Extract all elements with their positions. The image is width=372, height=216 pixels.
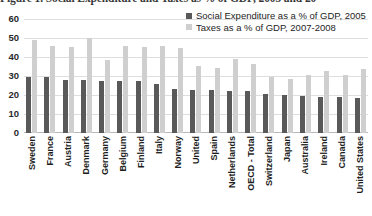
bar (190, 90, 195, 133)
x-axis-label: Switzerland (264, 136, 273, 186)
y-axis-tick-30: 30 (8, 71, 19, 81)
bar (215, 68, 220, 133)
x-axis-label: Belgium (118, 136, 127, 172)
bar (142, 47, 147, 133)
x-axis-label: United (191, 136, 200, 164)
x-axis-label-slot: Austria (63, 136, 74, 216)
x-axis-label: Ireland (319, 136, 328, 166)
bar-group (245, 19, 256, 133)
bar-group (300, 19, 311, 133)
x-axis-label-slot: France (44, 136, 55, 216)
bar-group (263, 19, 274, 133)
y-axis-tick-40: 40 (8, 52, 19, 62)
y-axis-tick-20: 20 (8, 90, 19, 100)
x-axis-label-slot: Canada (337, 136, 348, 216)
y-axis-tick-50: 50 (8, 33, 19, 43)
bar (300, 96, 305, 133)
x-axis-label: Italy (155, 136, 164, 154)
bar (99, 81, 104, 133)
bar-group (227, 19, 238, 133)
bar-group (209, 19, 220, 133)
x-axis-label-slot: Spain (209, 136, 220, 216)
y-axis: 6050403020100 (0, 19, 22, 133)
x-axis-label-slot: Australia (300, 136, 311, 216)
bar-group (318, 19, 329, 133)
y-axis-tick-10: 10 (8, 109, 19, 119)
bar (263, 94, 268, 133)
bar (172, 89, 177, 133)
bar-group (190, 19, 201, 133)
bar (50, 46, 55, 133)
bar-group (63, 19, 74, 133)
x-axis-label-slot: Norway (172, 136, 183, 216)
bar-group (154, 19, 165, 133)
bar (196, 66, 201, 133)
bar (123, 46, 128, 133)
x-axis-label-slot: Switzerland (263, 136, 274, 216)
x-axis-label: Germany (100, 136, 109, 175)
x-axis-label-slot: Finland (136, 136, 147, 216)
x-axis-label-slot: Germany (99, 136, 110, 216)
bar-group (282, 19, 293, 133)
x-axis-label: France (45, 136, 54, 166)
x-axis-label: Sweden (27, 136, 36, 170)
bar (81, 80, 86, 133)
x-axis-label-slot: Japan (282, 136, 293, 216)
x-axis-label: Australia (301, 136, 310, 175)
bar (209, 90, 214, 133)
x-axis-label: United States (356, 136, 365, 194)
x-axis-label: Austria (64, 136, 73, 167)
bar-group (81, 19, 92, 133)
bar-group (355, 19, 366, 133)
plot-area (24, 19, 368, 133)
x-axis-label-slot: United States (355, 136, 366, 216)
x-axis-label-slot: Netherlands (227, 136, 238, 216)
x-axis-label: Norway (173, 136, 182, 169)
bar (136, 81, 141, 133)
figure-title: Figure 1. Social Expenditure and Taxes a… (0, 0, 372, 5)
bar-group (172, 19, 183, 133)
x-axis-label-slot: Ireland (318, 136, 329, 216)
figure-container: Figure 1. Social Expenditure and Taxes a… (0, 0, 372, 216)
bar (44, 77, 49, 133)
bar-group (136, 19, 147, 133)
bar (355, 98, 360, 133)
legend-item[interactable]: Taxes as a % of GDP, 2007-2008 (186, 23, 366, 33)
x-axis-label-slot: Belgium (117, 136, 128, 216)
bar (306, 75, 311, 133)
x-axis-label: Denmark (82, 136, 91, 175)
bar (337, 97, 342, 133)
bar (26, 77, 31, 133)
x-axis-label: Canada (338, 136, 347, 169)
x-axis-label-slot: Denmark (81, 136, 92, 216)
legend-swatch-icon (186, 24, 192, 30)
x-axis-label-slot: OECD - Total (245, 136, 256, 216)
bar (32, 40, 37, 133)
bar (63, 80, 68, 133)
bar-group (117, 19, 128, 133)
bar (269, 77, 274, 133)
legend-item[interactable]: Social Expenditure as a % of GDP, 2005 (186, 11, 366, 21)
bar (324, 71, 329, 133)
x-axis-label: Spain (210, 136, 219, 161)
bar (245, 91, 250, 133)
chart-legend: Social Expenditure as a % of GDP, 2005Ta… (186, 11, 366, 32)
x-axis-labels: SwedenFranceAustriaDenmarkGermanyBelgium… (24, 136, 368, 216)
bar (282, 95, 287, 133)
x-axis-label-slot: Sweden (26, 136, 37, 216)
bar (105, 60, 110, 133)
bar (160, 46, 165, 133)
bar-group (44, 19, 55, 133)
x-axis-label: Netherlands (228, 136, 237, 188)
x-axis-label: Finland (137, 136, 146, 168)
x-axis-label-slot: United (190, 136, 201, 216)
bar (117, 81, 122, 133)
bar-group (99, 19, 110, 133)
legend-swatch-icon (186, 13, 192, 19)
y-axis-tick-60: 60 (8, 14, 19, 24)
bar (69, 47, 74, 133)
x-axis-label-slot: Italy (154, 136, 165, 216)
bar-groups (24, 19, 368, 133)
bar (227, 91, 232, 133)
bar-group (26, 19, 37, 133)
